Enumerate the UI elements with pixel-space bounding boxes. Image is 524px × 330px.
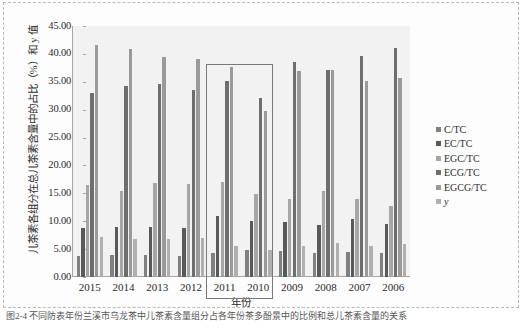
bar xyxy=(355,199,358,277)
bar xyxy=(167,239,170,277)
bar xyxy=(283,222,286,277)
legend-item-label: EC/TC xyxy=(444,138,472,149)
bar xyxy=(149,227,152,277)
bar xyxy=(144,255,147,277)
legend-item-label: C/TC xyxy=(444,124,466,135)
bar xyxy=(245,250,248,277)
bar xyxy=(313,253,316,277)
bar-group xyxy=(208,26,242,277)
bar xyxy=(81,228,84,277)
bar xyxy=(360,56,363,277)
legend-swatch-icon xyxy=(436,156,441,161)
bar xyxy=(110,255,113,277)
legend-item-label: EGCG/TC xyxy=(444,182,487,193)
legend-swatch-icon xyxy=(436,170,441,175)
bar xyxy=(196,59,199,277)
bar xyxy=(254,194,257,277)
legend-item[interactable]: ECG/TC xyxy=(436,166,514,181)
bar xyxy=(115,227,118,277)
bar xyxy=(192,90,195,277)
y-tick-mark xyxy=(83,277,86,278)
legend-item[interactable]: y xyxy=(436,195,514,210)
legend-item-label: y xyxy=(444,196,448,207)
bar xyxy=(268,250,271,277)
figure-caption: 图2-4 不同防表年份兰溪市乌龙茶中儿茶素含量组分占各年份茶多酚景中的比例和总儿… xyxy=(6,311,518,328)
bar xyxy=(250,221,253,277)
x-tick-label: 2006 xyxy=(376,281,410,293)
bar xyxy=(326,70,329,277)
bar xyxy=(129,49,132,277)
bar xyxy=(90,93,93,277)
bar xyxy=(221,182,224,277)
x-tick-label: 2015 xyxy=(73,281,107,293)
legend-item[interactable]: C/TC xyxy=(436,122,514,137)
bar xyxy=(365,81,368,277)
legend-item-label: ECG/TC xyxy=(444,167,480,178)
x-tick-label: 2014 xyxy=(107,281,141,293)
bar xyxy=(216,216,219,277)
bar xyxy=(95,45,98,277)
bar xyxy=(380,253,383,277)
bar xyxy=(162,57,165,277)
bar xyxy=(351,219,354,277)
bar xyxy=(394,48,397,277)
bar xyxy=(369,246,372,277)
bar xyxy=(403,244,406,277)
x-tick-label: 2007 xyxy=(343,281,377,293)
chart-legend: C/TCEC/TCEGC/TCECG/TCEGCG/TCy xyxy=(436,122,514,209)
bar-group xyxy=(73,26,107,277)
bar xyxy=(322,191,325,277)
legend-item[interactable]: EC/TC xyxy=(436,137,514,152)
bar-group xyxy=(343,26,377,277)
legend-swatch-icon xyxy=(436,199,441,204)
bar xyxy=(86,185,89,277)
legend-swatch-icon xyxy=(436,185,441,190)
bar xyxy=(158,84,161,277)
y-tick-label: 0.00 xyxy=(27,272,71,282)
bar xyxy=(211,253,214,277)
bar xyxy=(331,70,334,277)
bar xyxy=(182,228,185,277)
x-tick-label: 2009 xyxy=(275,281,309,293)
bar-group xyxy=(309,26,343,277)
bar xyxy=(133,239,136,277)
bar xyxy=(187,184,190,277)
bar xyxy=(317,225,320,277)
y-axis-title: 儿茶素各组分在总儿茶素含量中的占比（%）和 y 值 xyxy=(25,25,40,255)
bar-group xyxy=(275,26,309,277)
x-tick-label: 2010 xyxy=(242,281,276,293)
bar xyxy=(293,62,296,277)
bar xyxy=(259,98,262,277)
bar xyxy=(297,71,300,277)
bar xyxy=(302,246,305,278)
x-tick-label: 2013 xyxy=(140,281,174,293)
bar xyxy=(385,224,388,277)
bar xyxy=(264,111,267,277)
bar xyxy=(398,78,401,277)
bar-group xyxy=(140,26,174,277)
figure-container: 0.005.0010.0015.0020.0025.0030.0035.0040… xyxy=(0,0,524,330)
bar xyxy=(288,199,291,277)
bar-group xyxy=(376,26,410,277)
x-tick-label: 2008 xyxy=(309,281,343,293)
bar xyxy=(389,206,392,277)
bar-group xyxy=(107,26,141,277)
bar xyxy=(225,81,228,277)
bar xyxy=(124,86,127,277)
bar xyxy=(234,246,237,277)
bar-group xyxy=(242,26,276,277)
bar xyxy=(178,256,181,277)
chart-canvas: 0.005.0010.0015.0020.0025.0030.0035.0040… xyxy=(5,4,430,304)
x-tick-label: 2011 xyxy=(208,281,242,293)
legend-item-label: EGC/TC xyxy=(444,153,480,164)
x-axis-title: 年份 xyxy=(72,294,410,309)
bar xyxy=(77,256,80,277)
bar xyxy=(120,191,123,277)
legend-item[interactable]: EGCG/TC xyxy=(436,180,514,195)
bar xyxy=(153,183,156,277)
bar xyxy=(336,243,339,277)
bar xyxy=(100,237,103,277)
legend-item[interactable]: EGC/TC xyxy=(436,151,514,166)
bar xyxy=(230,67,233,277)
x-tick-label: 2012 xyxy=(174,281,208,293)
